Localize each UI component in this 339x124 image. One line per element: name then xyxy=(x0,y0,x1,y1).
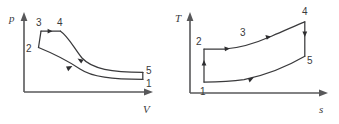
thermodynamic-cycle-figure: p V 1 2 3 4 5 T s xyxy=(0,0,339,124)
temperature-entropy-diagram: T s 1 2 3 4 5 xyxy=(170,0,339,124)
ts-x-axis-arrowhead xyxy=(319,90,328,97)
pv-x-axis-arrowhead xyxy=(144,89,153,96)
ts-state-label-1: 1 xyxy=(200,86,206,97)
pv-process-1-2 xyxy=(39,48,143,80)
ts-state-label-2: 2 xyxy=(196,36,202,47)
ts-arrow-4-5 xyxy=(302,31,307,37)
pv-y-axis-label: p xyxy=(8,12,15,24)
pv-process-4-5 xyxy=(61,31,143,72)
pv-state-label-5: 5 xyxy=(146,65,152,76)
pv-process-2-3 xyxy=(39,31,42,47)
ts-arrow-2-3 xyxy=(224,46,230,51)
ts-x-axis-label: s xyxy=(319,103,323,115)
pv-arrow-3-4 xyxy=(48,29,53,34)
ts-state-label-5: 5 xyxy=(307,55,313,66)
pv-x-axis-label: V xyxy=(143,103,151,115)
pv-state-label-2: 2 xyxy=(26,43,32,54)
pv-state-label-1: 1 xyxy=(146,78,152,89)
ts-state-label-4: 4 xyxy=(302,6,308,17)
ts-y-axis-arrowhead xyxy=(187,12,194,21)
ts-y-axis-label: T xyxy=(175,12,182,24)
pv-y-axis-arrowhead xyxy=(21,12,28,21)
pressure-volume-diagram: p V 1 2 3 4 5 xyxy=(0,0,170,124)
pv-state-label-4: 4 xyxy=(57,17,63,28)
ts-arrow-1-2 xyxy=(202,60,207,66)
pv-state-label-3: 3 xyxy=(36,17,42,28)
pv-arrow-1-2 xyxy=(66,66,72,71)
ts-state-label-3: 3 xyxy=(240,27,246,38)
ts-process-5-1 xyxy=(204,56,305,82)
ts-process-2-4 xyxy=(204,22,305,49)
